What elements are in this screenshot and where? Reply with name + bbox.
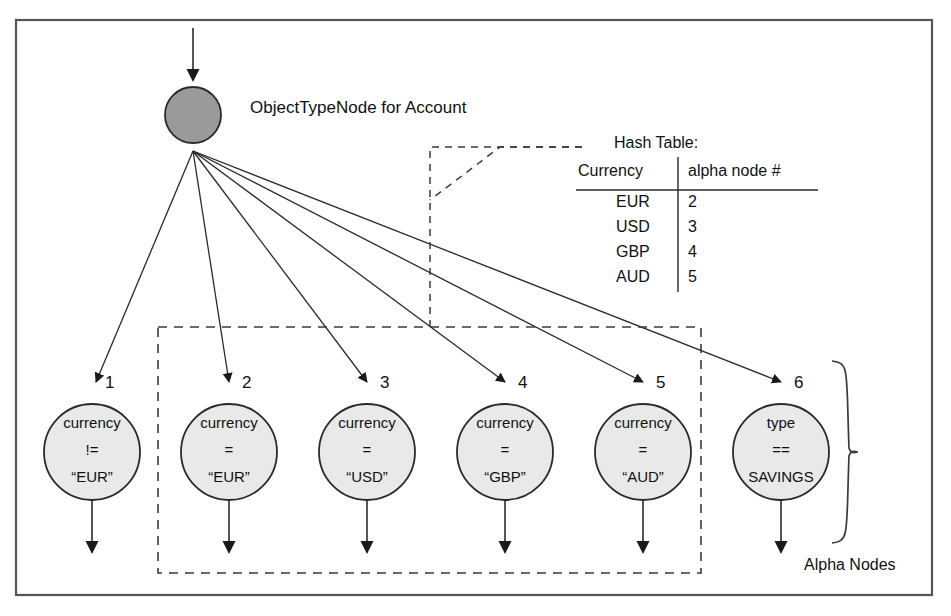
- alpha-node-operator: =: [319, 441, 415, 458]
- hashtable-caption: Hash Table:: [614, 134, 698, 152]
- hashtable-header-alpha-node: alpha node #: [688, 162, 781, 180]
- alpha-node-number: 5: [656, 373, 665, 393]
- alpha-node-output-arrows: [92, 500, 781, 552]
- alpha-node-number: 2: [242, 373, 251, 393]
- alpha-node-value: “EUR”: [181, 468, 277, 485]
- alpha-node-operator: ==: [733, 441, 829, 458]
- hashtable-row-node: 4: [688, 243, 697, 261]
- alpha-node-operator: !=: [44, 441, 140, 458]
- alpha-node-value: “USD”: [319, 468, 415, 485]
- objecttypenode-circle: [165, 87, 221, 143]
- alpha-node-operator: =: [181, 441, 277, 458]
- alpha-node-field: type: [733, 414, 829, 431]
- hashtable-row-currency: GBP: [616, 243, 650, 261]
- alpha-node-number: 1: [105, 373, 114, 393]
- alpha-node-field: currency: [595, 414, 691, 431]
- rete-network-diagram: [0, 0, 951, 616]
- hashtable-row-currency: USD: [616, 218, 650, 236]
- hashtable-row-currency: EUR: [616, 193, 650, 211]
- hashtable-leader-line: [430, 147, 582, 327]
- alpha-node-field: currency: [319, 414, 415, 431]
- alpha-node-field: currency: [457, 414, 553, 431]
- alpha-node-value: “EUR”: [44, 468, 140, 485]
- alpha-node-operator: =: [457, 441, 553, 458]
- hashtable-row-node: 3: [688, 218, 697, 236]
- alpha-nodes-bracket: [832, 361, 858, 543]
- alpha-node-number: 3: [380, 373, 389, 393]
- hashtable-row-node: 5: [688, 268, 697, 286]
- alpha-node-shapes: [44, 404, 829, 500]
- hashtable-row-node: 2: [688, 193, 697, 211]
- figure-canvas: ObjectTypeNode for Account Hash Table: C…: [0, 0, 951, 616]
- alpha-nodes-group-label: Alpha Nodes: [804, 556, 896, 574]
- hashtable-leader-diagonal: [430, 147, 582, 200]
- alpha-node-number: 4: [518, 373, 527, 393]
- objecttypenode-label: ObjectTypeNode for Account: [250, 98, 466, 118]
- alpha-node-field: currency: [44, 414, 140, 431]
- alpha-node-value: SAVINGS: [733, 468, 829, 485]
- alpha-node-value: “GBP”: [457, 468, 553, 485]
- hashtable-row-currency: AUD: [616, 268, 650, 286]
- hashtable-header-currency: Currency: [578, 162, 643, 180]
- alpha-node-field: currency: [181, 414, 277, 431]
- alpha-node-number: 6: [794, 373, 803, 393]
- alpha-node-value: “AUD”: [595, 468, 691, 485]
- alpha-node-operator: =: [595, 441, 691, 458]
- figure-border: [16, 20, 932, 595]
